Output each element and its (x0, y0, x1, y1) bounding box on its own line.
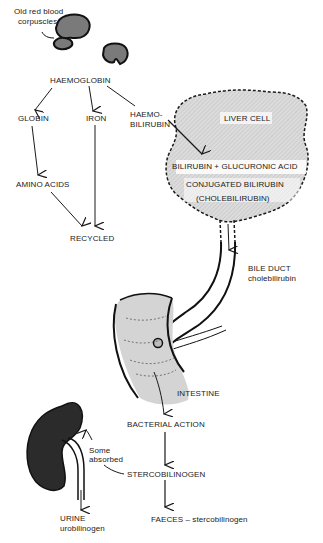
amino-acids-label: AMINO ACIDS (16, 180, 70, 190)
haemo-bilirubin-label-line1: HAEMO- (130, 110, 163, 120)
stercobilinogen-label: STERCOBILINOGEN (127, 470, 205, 480)
kidney-shape (27, 403, 84, 510)
bile-duct-label: BILE DUCT (248, 264, 291, 274)
liver-cell-label: LIVER CELL (224, 114, 270, 124)
intestine-label: INTESTINE (177, 389, 220, 399)
iron-label: IRON (86, 114, 106, 124)
rbc-label-line1: Old red blood (14, 7, 63, 17)
arrow-some-absorbed (86, 430, 92, 440)
intestine-shape (114, 293, 189, 405)
globin-label: GLOBIN (18, 114, 49, 124)
rbc-label-line2: corpuscles (18, 17, 57, 27)
arrow-to-amino-acids (32, 126, 38, 175)
cholebilirubin-label: (CHOLEBILIRUBIN) (196, 194, 270, 204)
faeces-label: FAECES – stercobilinogen (151, 515, 248, 525)
conjugated-bilirubin-label: CONJUGATED BILIRUBIN (186, 180, 284, 190)
line-to-haemobilirubin (107, 86, 135, 106)
urine-sublabel: urobilinogen (60, 524, 105, 534)
arrow-to-iron (89, 86, 93, 111)
line-stercobilinogen-to-kidney (104, 465, 124, 474)
arrow-to-globin (35, 88, 52, 110)
bilirubin-glucuronic-label: BILIRUBIN + GLUCURONIC ACID (172, 162, 298, 172)
bile-duct-sublabel: cholebilirubin (248, 274, 296, 284)
haemoglobin-label: HAEMOGLOBIN (50, 76, 111, 86)
bacterial-action-label: BACTERIAL ACTION (127, 420, 205, 430)
arrow-amino-to-recycled (51, 192, 82, 226)
recycled-label: RECYCLED (70, 234, 114, 244)
urine-label: URINE (60, 514, 85, 524)
haemo-bilirubin-label-line2: BILIRUBIN (130, 120, 170, 130)
some-absorbed-label-line2: absorbed (89, 455, 123, 465)
